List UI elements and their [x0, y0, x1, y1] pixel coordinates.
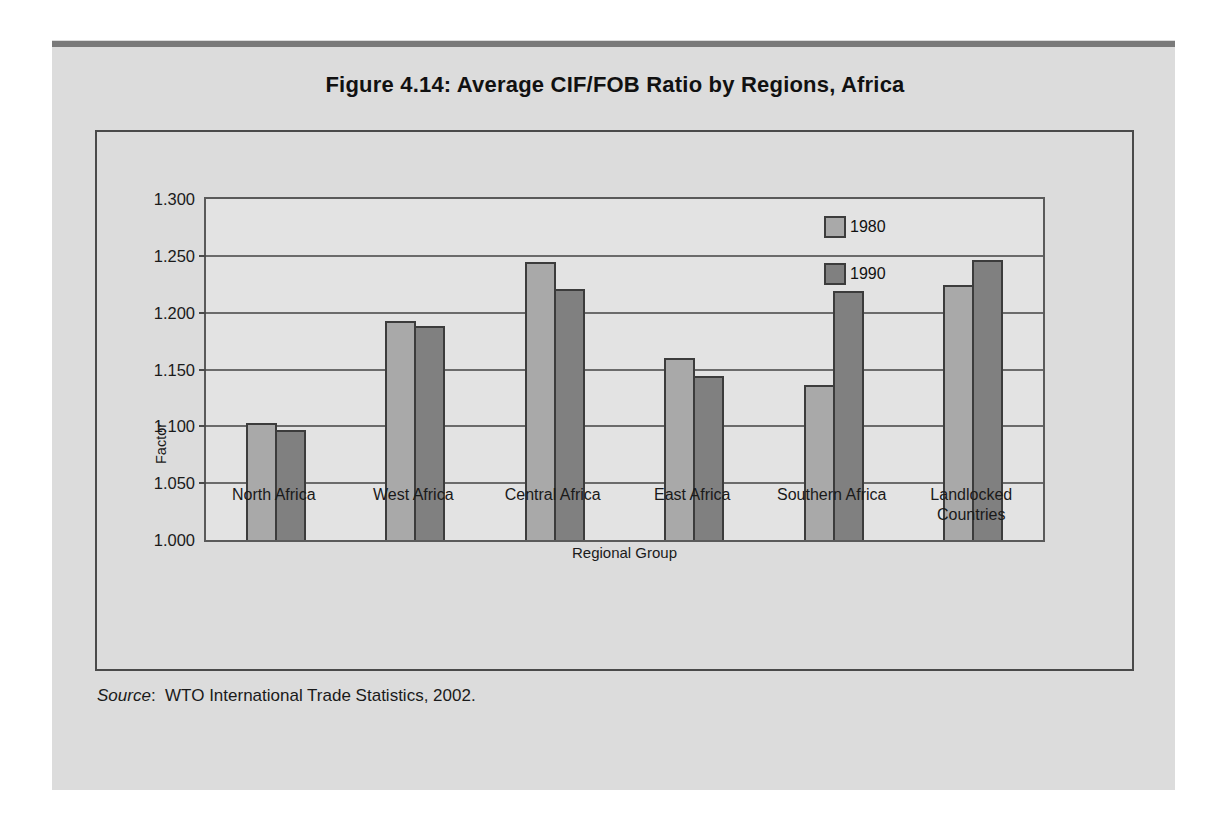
x-tick-label-line: East Africa	[623, 485, 763, 505]
x-tick-label: North Africa	[204, 485, 344, 505]
x-tick-label-line: Countries	[902, 505, 1042, 525]
y-tick-label: 1.250	[154, 246, 195, 265]
y-tick-label: 1.300	[154, 190, 195, 209]
source-note: Source: WTO International Trade Statisti…	[97, 686, 476, 706]
y-tick-label: 1.150	[154, 360, 195, 379]
x-tick-label-line: Southern Africa	[762, 485, 902, 505]
legend-item-1980: 1980	[824, 216, 886, 238]
source-separator: :	[151, 686, 156, 705]
x-tick-label-line: North Africa	[204, 485, 344, 505]
legend-swatch-1990	[824, 263, 846, 285]
bar-1980[interactable]	[664, 358, 695, 540]
bar-1990[interactable]	[414, 326, 445, 540]
source-text: WTO International Trade Statistics, 2002…	[165, 686, 476, 705]
x-tick-label: Southern Africa	[762, 485, 902, 505]
x-tick-label-line: West Africa	[344, 485, 484, 505]
y-tick-mark	[199, 312, 206, 314]
y-tick-mark	[199, 369, 206, 371]
y-tick-mark	[199, 425, 206, 427]
y-tick-label: 1.200	[154, 303, 195, 322]
bar-1980[interactable]	[385, 321, 416, 540]
legend-label-1980: 1980	[850, 218, 886, 236]
legend-swatch-1980	[824, 216, 846, 238]
x-tick-label-line: Landlocked	[902, 485, 1042, 505]
chart-frame: Factor 1.3001.2501.2001.1501.1001.0501.0…	[95, 130, 1134, 671]
figure-page: Figure 4.14: Average CIF/FOB Ratio by Re…	[0, 0, 1223, 837]
x-tick-label: West Africa	[344, 485, 484, 505]
x-axis-title: Regional Group	[204, 544, 1045, 561]
x-tick-label-line: Central Africa	[483, 485, 623, 505]
figure-title: Figure 4.14: Average CIF/FOB Ratio by Re…	[95, 72, 1135, 98]
y-tick-label: 1.100	[154, 417, 195, 436]
legend-label-1990: 1990	[850, 265, 886, 283]
bar-1990[interactable]	[693, 376, 724, 540]
top-rule-divider	[52, 41, 1175, 47]
bar-1980[interactable]	[804, 385, 835, 540]
bar-1980[interactable]	[246, 423, 277, 540]
legend-item-1990: 1990	[824, 263, 886, 285]
y-tick-mark	[199, 482, 206, 484]
y-tick-label: 1.000	[154, 531, 195, 550]
source-label: Source	[97, 686, 151, 705]
x-tick-label: Central Africa	[483, 485, 623, 505]
y-tick-mark	[199, 255, 206, 257]
chart-legend: 1980 1990	[824, 216, 886, 310]
x-tick-label: LandlockedCountries	[902, 485, 1042, 525]
y-tick-label: 1.050	[154, 474, 195, 493]
x-tick-label: East Africa	[623, 485, 763, 505]
